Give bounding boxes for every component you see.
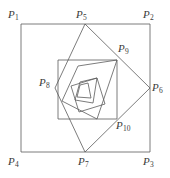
vertex-label-base: P bbox=[8, 8, 15, 20]
vertex-label-base: P bbox=[76, 8, 83, 20]
vertex-label-p3: P3 bbox=[143, 156, 153, 167]
vertex-label-p7: P7 bbox=[78, 156, 88, 167]
vertex-label-base: P bbox=[8, 155, 15, 167]
vertex-label-subscript: 4 bbox=[15, 160, 19, 169]
vertex-label-subscript: 2 bbox=[150, 13, 154, 22]
geometry-figure: P1P5P2P9P8P6P10P4P7P3 bbox=[0, 0, 170, 178]
vertex-label-base: P bbox=[143, 8, 150, 20]
vertex-label-p2: P2 bbox=[143, 9, 153, 20]
vertex-label-subscript: 6 bbox=[159, 86, 163, 95]
vertex-label-base: P bbox=[116, 119, 123, 131]
vertex-label-subscript: 9 bbox=[125, 47, 129, 56]
vertex-label-base: P bbox=[143, 155, 150, 167]
vertex-label-p4: P4 bbox=[8, 156, 18, 167]
second-square bbox=[55, 24, 150, 152]
vertex-label-subscript: 1 bbox=[15, 13, 19, 22]
vertex-label-base: P bbox=[118, 42, 125, 54]
vertex-label-p1: P1 bbox=[8, 9, 18, 20]
vertex-label-p8: P8 bbox=[39, 77, 49, 88]
nested-squares-drawing bbox=[0, 0, 170, 178]
vertex-label-subscript: 7 bbox=[85, 160, 89, 169]
vertex-label-subscript: 10 bbox=[123, 124, 131, 133]
vertex-label-subscript: 3 bbox=[150, 160, 154, 169]
vertex-label-subscript: 8 bbox=[46, 81, 50, 90]
vertex-label-p10: P10 bbox=[116, 120, 130, 131]
vertex-label-p5: P5 bbox=[76, 9, 86, 20]
vertex-label-p9: P9 bbox=[118, 43, 128, 54]
vertex-label-base: P bbox=[39, 76, 46, 88]
vertex-label-base: P bbox=[152, 81, 159, 93]
vertex-label-subscript: 5 bbox=[83, 13, 87, 22]
vertex-label-base: P bbox=[78, 155, 85, 167]
vertex-label-p6: P6 bbox=[152, 82, 162, 93]
